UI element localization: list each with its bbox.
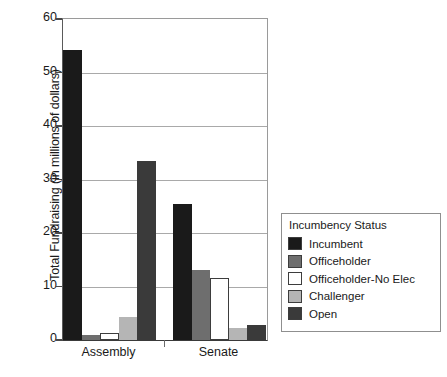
legend-item-label: Incumbent (309, 238, 363, 250)
plot-area (62, 18, 268, 341)
x-tick-label-assembly: Assembly (59, 345, 159, 359)
gridline (63, 180, 267, 181)
bar (173, 204, 192, 340)
bar (119, 317, 138, 340)
legend-item-label: Challenger (309, 290, 365, 302)
bar (137, 161, 156, 340)
y-tick-label: 10 (17, 279, 57, 292)
y-tick-label: 0 (17, 332, 57, 345)
y-tick-label: 30 (17, 172, 57, 185)
y-tick-label: 60 (17, 11, 57, 24)
legend-item: Officeholder (288, 253, 440, 271)
gridline (63, 126, 267, 127)
bar (63, 50, 82, 340)
x-tick-label-senate: Senate (169, 345, 269, 359)
legend-item-group: IncumbentOfficeholderOfficeholder-No Ele… (288, 235, 440, 323)
gridline (63, 233, 267, 234)
y-tick-label: 20 (17, 225, 57, 238)
y-tick-label: 40 (17, 118, 57, 131)
legend-swatch-icon (288, 272, 302, 285)
legend-swatch-icon (288, 255, 302, 268)
bar (247, 325, 266, 340)
legend-swatch-icon (288, 307, 302, 320)
bar (192, 270, 211, 340)
legend-item-label: Open (309, 308, 337, 320)
x-axis-center-tick (164, 340, 166, 347)
legend-item: Officeholder-No Elec (288, 270, 440, 288)
legend-swatch-icon (288, 237, 302, 250)
legend-item: Challenger (288, 288, 440, 306)
gridline (63, 287, 267, 288)
bar (82, 335, 101, 340)
legend-item-label: Officeholder (309, 255, 371, 267)
bar-chart: Total Fundraising (in millions of dollar… (0, 0, 447, 377)
bar (210, 278, 229, 340)
legend-title: Incumbency Status (289, 219, 440, 231)
legend-item-label: Officeholder-No Elec (309, 273, 415, 285)
legend-item: Incumbent (288, 235, 440, 253)
bar (100, 333, 119, 340)
legend-swatch-icon (288, 290, 302, 303)
scan-artifact (0, 0, 447, 10)
gridline (63, 73, 267, 74)
legend: Incumbency Status IncumbentOfficeholderO… (281, 213, 441, 332)
bar (229, 328, 248, 340)
y-tick-label: 50 (17, 65, 57, 78)
legend-item: Open (288, 305, 440, 323)
